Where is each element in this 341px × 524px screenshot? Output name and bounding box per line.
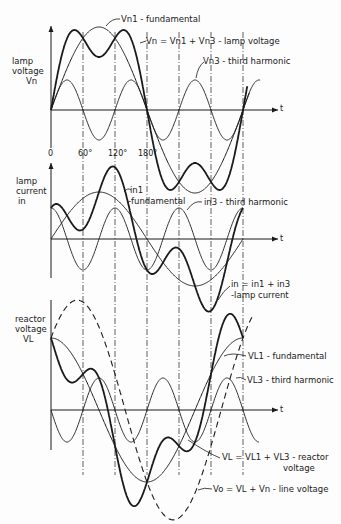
vo-leader: [198, 488, 212, 490]
vl-label: VL = VL1 + VL3 - reactor: [222, 452, 328, 462]
reactor-voltage-axis-label: reactor voltage VL: [15, 314, 47, 344]
tick-0: 0: [48, 149, 53, 158]
axis-label-symbol: Vn: [12, 76, 44, 86]
tick-60: 60°: [78, 149, 92, 158]
waveform-plot: [0, 0, 341, 524]
vl3-leader: [236, 377, 246, 380]
vl3-label: VL3 - third harmonic: [247, 375, 334, 385]
lamp-voltage-axis-label: lamp voltage Vn: [12, 56, 44, 86]
axis-label-line: voltage: [12, 66, 44, 76]
axis-label-line: lamp: [12, 56, 44, 66]
vl1-label: VL1 - fundamental: [248, 351, 327, 361]
in-lamp-current-label: -lamp current: [231, 290, 289, 300]
vo-label: Vo = VL + Vn - line voltage: [213, 484, 328, 494]
tick-180: 180°: [138, 149, 157, 158]
in3-leader: [187, 202, 202, 210]
vl-leader: [188, 440, 220, 458]
axis-label-line: lamp: [16, 176, 47, 186]
t-axis-arrow-icon: [272, 408, 278, 413]
in1-fundamental-label: -fundamental: [128, 196, 185, 206]
axis-label-line: reactor: [15, 314, 47, 324]
tick-120: 120°: [108, 149, 127, 158]
in1-label: in1: [130, 185, 143, 195]
in-label: in = in1 + in3: [231, 279, 290, 289]
t-axis-label: t: [280, 104, 283, 113]
t-axis-arrow-icon: [272, 108, 278, 113]
lamp-current-axis-label: lamp current in: [16, 176, 47, 206]
t-axis-arrow-icon: [272, 237, 278, 242]
axis-label-symbol: VL: [15, 334, 47, 344]
y-axis-arrow-icon: [49, 26, 54, 32]
t-axis-label: t: [280, 405, 283, 414]
axis-label-symbol: in: [16, 196, 47, 206]
vn3-label: Vn3 - third harmonic: [203, 56, 290, 66]
vl-voltage-label: voltage: [283, 463, 315, 473]
axis-label-line: current: [16, 186, 47, 196]
vn1-leader: [106, 19, 120, 26]
waveform-figure: lamp voltage Vn Vn1 - fundamental Vn = V…: [0, 0, 341, 524]
t-axis-label: t: [280, 234, 283, 243]
axis-label-line: voltage: [15, 324, 47, 334]
in3-label: in3 - third harmonic: [204, 197, 288, 207]
vn1-label: Vn1 - fundamental: [121, 14, 200, 24]
vn-label: Vn = Vn1 + Vn3 - lamp voltage: [146, 36, 280, 46]
y-axis-arrow-icon: [49, 163, 54, 169]
